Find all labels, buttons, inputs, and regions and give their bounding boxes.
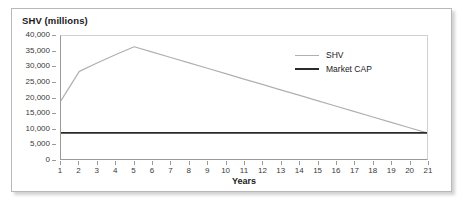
x-tick-mark <box>318 161 319 165</box>
y-tick-label: 10,000 <box>26 125 50 133</box>
x-tick-mark <box>244 161 245 165</box>
x-tick-label: 18 <box>368 167 377 175</box>
y-tick-mark <box>52 160 56 161</box>
y-tick-label: 35,000 <box>26 47 50 55</box>
x-tick-label: 19 <box>387 167 396 175</box>
x-tick-mark <box>410 161 411 165</box>
y-axis: 05,00010,00015,00020,00025,00030,00035,0… <box>12 35 56 160</box>
y-tick-mark <box>52 82 56 83</box>
x-tick-label: 7 <box>168 167 172 175</box>
x-tick-mark <box>134 161 135 165</box>
plot-area <box>60 35 428 160</box>
y-tick-mark <box>52 51 56 52</box>
x-tick-mark <box>78 161 79 165</box>
x-tick-mark <box>354 161 355 165</box>
legend-swatch-icon <box>295 55 319 56</box>
y-tick-mark <box>52 98 56 99</box>
x-tick-label: 17 <box>350 167 359 175</box>
y-tick-mark <box>52 35 56 36</box>
x-tick-mark <box>189 161 190 165</box>
x-tick-mark <box>170 161 171 165</box>
series-line-shv <box>61 47 427 133</box>
x-tick-label: 6 <box>150 167 154 175</box>
chart-legend: SHVMarket CAP <box>295 49 372 77</box>
x-tick-label: 11 <box>240 167 248 175</box>
chart-figure-frame: SHV (millions) 05,00010,00015,00020,0002… <box>11 8 452 192</box>
x-tick-label: 13 <box>276 167 285 175</box>
x-tick-label: 12 <box>258 167 267 175</box>
x-tick-label: 3 <box>95 167 99 175</box>
x-tick-label: 9 <box>205 167 209 175</box>
legend-label: SHV <box>326 51 343 60</box>
x-tick-mark <box>97 161 98 165</box>
legend-item-market-cap: Market CAP <box>295 63 372 75</box>
y-tick-label: 20,000 <box>26 94 50 102</box>
y-tick-mark <box>52 129 56 130</box>
x-tick-mark <box>428 161 429 165</box>
x-tick-label: 14 <box>295 167 304 175</box>
x-tick-label: 20 <box>405 167 414 175</box>
legend-label: Market CAP <box>326 65 372 74</box>
x-tick-mark <box>60 161 61 165</box>
y-tick-label: 25,000 <box>26 78 50 86</box>
x-tick-mark <box>226 161 227 165</box>
x-tick-label: 15 <box>313 167 322 175</box>
y-tick-mark <box>52 144 56 145</box>
legend-item-shv: SHV <box>295 49 372 61</box>
x-tick-mark <box>281 161 282 165</box>
y-tick-mark <box>52 113 56 114</box>
x-tick-mark <box>336 161 337 165</box>
y-tick-label: 0 <box>46 156 50 164</box>
legend-swatch-icon <box>295 68 319 70</box>
plot-lines <box>61 36 427 159</box>
x-tick-mark <box>115 161 116 165</box>
x-tick-mark <box>262 161 263 165</box>
x-tick-label: 1 <box>58 167 62 175</box>
x-tick-label: 4 <box>113 167 117 175</box>
y-tick-label: 40,000 <box>26 31 50 39</box>
x-tick-label: 21 <box>424 167 433 175</box>
x-tick-mark <box>207 161 208 165</box>
x-tick-label: 10 <box>221 167 230 175</box>
x-tick-mark <box>391 161 392 165</box>
x-tick-mark <box>373 161 374 165</box>
chart-title: SHV (millions) <box>22 15 88 26</box>
x-tick-label: 2 <box>76 167 80 175</box>
x-axis-title: Years <box>60 176 428 186</box>
x-tick-mark <box>299 161 300 165</box>
y-tick-label: 5,000 <box>30 140 50 148</box>
y-tick-label: 15,000 <box>26 109 50 117</box>
x-tick-label: 16 <box>332 167 341 175</box>
x-tick-mark <box>152 161 153 165</box>
y-tick-label: 30,000 <box>26 62 50 70</box>
x-tick-label: 5 <box>131 167 135 175</box>
x-tick-label: 8 <box>187 167 191 175</box>
y-tick-mark <box>52 66 56 67</box>
x-axis: 123456789101112131415161718192021 <box>60 161 428 177</box>
